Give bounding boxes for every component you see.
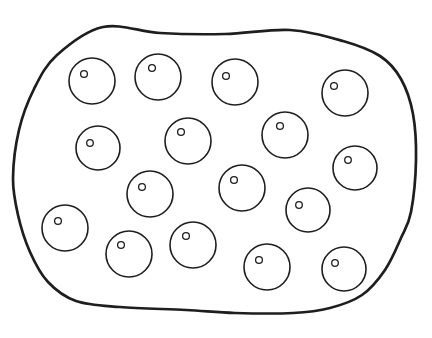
inner-dot	[178, 129, 185, 136]
inner-dot	[331, 83, 338, 90]
inner-dot	[256, 257, 263, 264]
cell-circle	[135, 54, 181, 100]
cell-circle	[165, 118, 211, 164]
cell-circle	[127, 171, 173, 217]
cell-circle	[42, 205, 88, 251]
cell-cluster-diagram	[0, 0, 432, 338]
cell-circle	[244, 244, 290, 290]
cell-circle-group	[76, 126, 120, 170]
inner-dot	[81, 71, 88, 78]
cell-circle-group	[322, 247, 366, 291]
cell-circle-group	[322, 70, 368, 116]
cell-circle-group	[219, 165, 265, 211]
inner-dot	[231, 177, 238, 184]
cell-circle-group	[42, 205, 88, 251]
cell-circle-group	[212, 59, 258, 105]
cell-circle-group	[170, 222, 216, 268]
cell-circle-group	[69, 58, 115, 104]
cell-circle-group	[127, 171, 173, 217]
cell-circle-group	[262, 112, 308, 158]
inner-dot	[296, 202, 303, 209]
cell-circle-group	[286, 188, 330, 232]
cell-circle	[69, 58, 115, 104]
inner-dot	[87, 140, 94, 147]
cell-circle-group	[106, 231, 152, 277]
cell-circle-group	[244, 244, 290, 290]
cell-circle	[76, 126, 120, 170]
cell-circle	[322, 70, 368, 116]
diagram-canvas	[0, 0, 432, 338]
cell-circle	[262, 112, 308, 158]
cell-circle	[170, 222, 216, 268]
inner-dot	[277, 123, 284, 130]
inner-dot	[55, 218, 62, 225]
cell-circle	[219, 165, 265, 211]
inner-dot	[183, 233, 190, 240]
inner-dot	[332, 260, 339, 267]
cell-circle	[322, 247, 366, 291]
inner-dot	[139, 184, 146, 191]
inner-dot	[118, 242, 125, 249]
cell-circle	[286, 188, 330, 232]
inner-dot	[223, 73, 230, 80]
cell-circle	[333, 146, 377, 190]
inner-dot	[345, 157, 352, 164]
cell-circle-group	[135, 54, 181, 100]
cell-circle-group	[165, 118, 211, 164]
cell-circle	[106, 231, 152, 277]
cell-circle	[212, 59, 258, 105]
inner-dot	[149, 65, 156, 72]
cell-circle-group	[333, 146, 377, 190]
